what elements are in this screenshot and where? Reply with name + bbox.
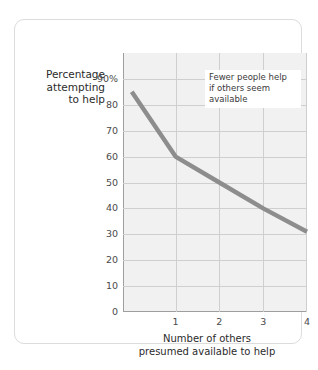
x-tick-label: 1 (173, 317, 179, 327)
annotation-callout: Fewer people help if others seem availab… (205, 70, 301, 108)
x-axis-title: Number of others presumed available to h… (99, 333, 315, 358)
x-tick-label: 4 (304, 317, 310, 327)
y-tick-label: 90% (97, 74, 118, 84)
x-axis-title-line-2: presumed available to help (99, 346, 315, 359)
figure-frame: Percentage attempting to help 0102030405… (14, 19, 302, 344)
annotation-line-3: available (209, 94, 298, 105)
y-tick-label: 10 (106, 281, 118, 291)
x-tick-label: 2 (216, 317, 222, 327)
annotation-line-1: Fewer people help (209, 72, 298, 83)
y-axis-title-line-1: Percentage (21, 68, 105, 81)
y-axis-title-line-3: to help (21, 93, 105, 106)
x-tick-label: 3 (260, 317, 266, 327)
y-axis-title: Percentage attempting to help (21, 68, 105, 106)
plot-region: 0102030405060708090% 1234 Fewer people h… (123, 53, 307, 312)
x-axis-title-line-1: Number of others (99, 333, 315, 346)
y-tick-label: 20 (106, 255, 118, 265)
y-tick-label: 60 (106, 152, 118, 162)
y-tick-label: 0 (112, 307, 118, 317)
y-tick-label: 30 (106, 230, 118, 240)
y-tick-label: 70 (106, 126, 118, 136)
annotation-line-2: if others seem (209, 83, 298, 94)
y-tick-label: 80 (106, 100, 118, 110)
y-axis-title-line-2: attempting (21, 81, 105, 94)
y-tick-label: 40 (106, 204, 118, 214)
y-tick-label: 50 (106, 178, 118, 188)
